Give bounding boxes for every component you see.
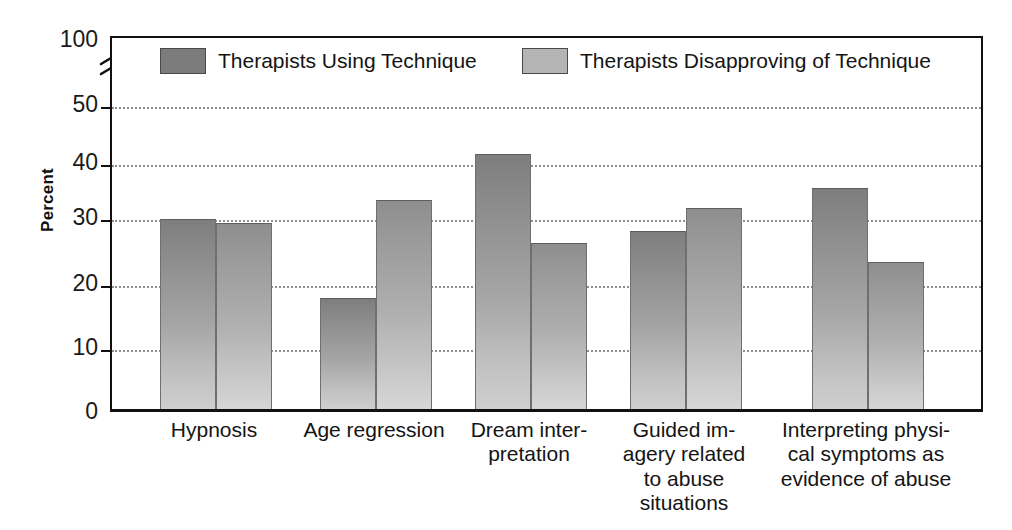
- y-tickmark-30: [101, 220, 112, 222]
- bar-group-2: [475, 38, 587, 409]
- x-category-line: cal symptoms as: [756, 442, 976, 466]
- bar-3-series-0: [630, 231, 686, 409]
- x-axis-category-labels: HypnosisAge regressionDream inter-pretat…: [110, 418, 983, 530]
- bar-group-4: [812, 38, 924, 409]
- y-tick-label-30: 30: [38, 206, 98, 229]
- x-category-line: evidence of abuse: [756, 467, 976, 491]
- x-category-label-4: Interpreting physi-cal symptoms aseviden…: [756, 418, 976, 491]
- bar-group-1: [320, 38, 432, 409]
- y-axis-tick-labels: 10050403020100: [30, 0, 98, 530]
- y-tick-label-0: 0: [38, 400, 98, 423]
- y-tick-label-10: 10: [38, 336, 98, 359]
- y-tick-label-50: 50: [38, 93, 98, 116]
- y-tick-label-40: 40: [38, 151, 98, 174]
- chart-figure: Percent 10050403020100 Therapists Using …: [0, 0, 1012, 530]
- bar-1-series-0: [320, 298, 376, 409]
- bar-0-series-0: [160, 219, 216, 409]
- bar-2-series-0: [475, 154, 531, 409]
- y-tickmark-10: [101, 350, 112, 352]
- bar-0-series-1: [216, 223, 272, 409]
- y-tick-label-20: 20: [38, 272, 98, 295]
- x-category-line: situations: [574, 491, 794, 515]
- x-category-line: Interpreting physi-: [756, 418, 976, 442]
- bar-3-series-1: [686, 208, 742, 409]
- bar-series-container: [112, 38, 981, 409]
- y-tickmark-20: [101, 286, 112, 288]
- bar-group-0: [160, 38, 272, 409]
- y-tickmark-50: [101, 107, 112, 109]
- bar-4-series-1: [868, 262, 924, 409]
- bar-2-series-1: [531, 243, 587, 409]
- y-tick-label-100: 100: [38, 28, 98, 51]
- bar-4-series-0: [812, 188, 868, 409]
- y-tickmark-40: [101, 165, 112, 167]
- bar-1-series-1: [376, 200, 432, 409]
- bar-group-3: [630, 38, 742, 409]
- plot-area: Therapists Using TechniqueTherapists Dis…: [110, 36, 983, 412]
